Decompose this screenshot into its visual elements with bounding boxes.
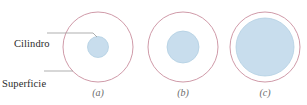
panel-c-group [230,12,300,82]
cilindro-label-text: Cilindro [14,38,50,49]
panel-b-group [148,12,218,82]
superficie-gaussiana-label: Superficie gaussiana [2,53,46,105]
panel-a-group [63,12,133,82]
gaussian-surface-figure: Cilindro Superficie gaussiana (a) (b) (c… [0,0,307,105]
cylinder-circle-c [236,18,294,76]
panel-caption-a: (a) [78,87,118,98]
cylinder-circle-a [88,37,109,58]
superficie-gaussiana-label-line1: Superficie [2,78,46,91]
panel-caption-c: (c) [245,87,285,98]
cylinder-circle-b [167,31,199,63]
cilindro-leader-line [47,33,97,37]
panel-caption-b: (b) [163,87,203,98]
